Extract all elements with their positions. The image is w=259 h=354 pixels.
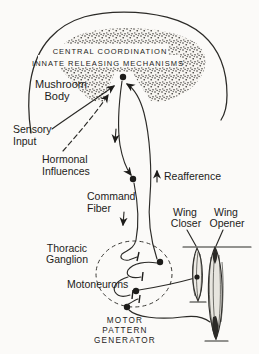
mushroom-body-label-1: Mushroom bbox=[35, 78, 87, 90]
command-fiber-group bbox=[115, 81, 139, 261]
mushroom-body-label-2: Body bbox=[44, 90, 70, 102]
sensory-input-label-1: Sensory bbox=[13, 123, 52, 135]
reafference-path bbox=[127, 84, 157, 259]
axon-to-wing-closer bbox=[139, 278, 195, 290]
command-fiber-label-1: Command bbox=[87, 190, 136, 202]
command-synapse-terminal bbox=[137, 252, 139, 261]
hormonal-influences-arrow bbox=[63, 95, 108, 151]
hormonal-label-1: Hormonal bbox=[42, 153, 88, 165]
interneuron-dot bbox=[157, 259, 163, 265]
hormonal-label-2: Influences bbox=[42, 165, 90, 177]
brain-neuron-dot bbox=[120, 74, 126, 80]
motor-pattern-generator-label-2: PATTERN bbox=[102, 326, 147, 335]
sensory-input-label-2: Input bbox=[13, 135, 36, 147]
command-neuron-dot bbox=[130, 176, 136, 182]
descending-direction-arrow-2 bbox=[123, 212, 124, 225]
thoracic-ganglion-label-2: Ganglion bbox=[46, 253, 88, 265]
command-fiber-label-2: Fiber bbox=[87, 202, 111, 214]
interneuron-synapse-terminal bbox=[142, 272, 143, 281]
motor-pattern-generator-label-3: GENERATOR bbox=[94, 336, 156, 345]
thoracic-ganglion-circle bbox=[96, 241, 172, 307]
closer-innervation-dot bbox=[194, 274, 199, 279]
motoneurons-label: Motoneurons bbox=[67, 278, 128, 290]
motoneuron-dot-1 bbox=[133, 288, 139, 294]
descending-direction-arrow-1 bbox=[115, 129, 116, 142]
thoracic-ganglion-group bbox=[96, 241, 172, 310]
circuit-diagram-svg: CENTRAL COORDINATION INNATE RELEASING ME… bbox=[0, 0, 259, 354]
reafference-label: Reafference bbox=[164, 170, 221, 182]
central-coordination-label: CENTRAL COORDINATION bbox=[53, 47, 168, 56]
muscles-group bbox=[183, 230, 251, 341]
wing-closer-leader-line bbox=[187, 230, 196, 246]
wing-opener-leader-line bbox=[216, 230, 223, 246]
wing-closer-label-2: Closer bbox=[171, 217, 202, 229]
innate-releasing-label: INNATE RELEASING MECHANISMS bbox=[32, 59, 184, 68]
wing-opener-label-2: Opener bbox=[209, 217, 245, 229]
motoneuron2-synapse-terminal bbox=[139, 295, 140, 303]
neuroethology-circuit-figure: CENTRAL COORDINATION INNATE RELEASING ME… bbox=[0, 0, 259, 354]
brain-group: CENTRAL COORDINATION INNATE RELEASING ME… bbox=[29, 12, 227, 133]
reafference-group bbox=[127, 84, 157, 259]
motor-pattern-generator-label-1: MOTOR bbox=[107, 316, 143, 325]
motoneuron2-dendrite bbox=[127, 299, 138, 305]
